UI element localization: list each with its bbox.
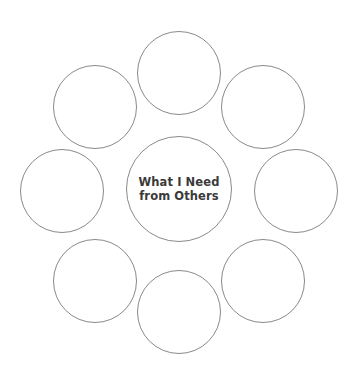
cluster-diagram: What I Need from Others bbox=[0, 0, 355, 376]
petal-circle-bottom[interactable] bbox=[137, 270, 221, 354]
petal-circle-bottom-left[interactable] bbox=[53, 239, 137, 323]
petal-circle-left[interactable] bbox=[20, 149, 104, 233]
center-circle-label: What I Need from Others bbox=[139, 175, 220, 204]
center-circle[interactable]: What I Need from Others bbox=[126, 136, 232, 242]
petal-circle-top-right[interactable] bbox=[221, 65, 305, 149]
petal-circle-top-left[interactable] bbox=[53, 65, 137, 149]
petal-circle-right[interactable] bbox=[254, 149, 338, 233]
petal-circle-top[interactable] bbox=[137, 31, 221, 115]
petal-circle-bottom-right[interactable] bbox=[221, 239, 305, 323]
